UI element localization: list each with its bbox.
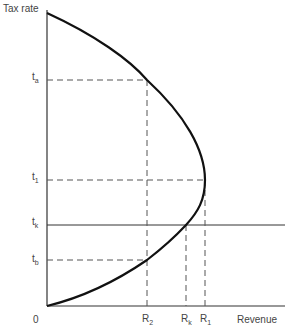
tick-ta: ta: [32, 71, 39, 84]
tick-rk: Rk: [181, 313, 192, 326]
laffer-curve-diagram: Tax rate Revenue 0 ta t1 tk tb R2 Rk R1: [0, 0, 292, 329]
y-axis-label: Tax rate: [3, 3, 39, 14]
laffer-curve: [47, 13, 205, 306]
origin-label: 0: [33, 314, 39, 325]
tick-tb: tb: [32, 253, 39, 266]
x-axis-label: Revenue: [237, 314, 277, 325]
tick-r2: R2: [142, 313, 153, 326]
tick-tk: tk: [32, 216, 39, 229]
tick-t1: t1: [32, 171, 39, 184]
tick-r1: R1: [200, 313, 211, 326]
